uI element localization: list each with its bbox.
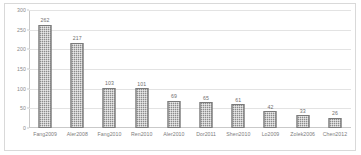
bar-slot: 42 — [254, 10, 286, 128]
bar-value-label: 26 — [332, 110, 338, 116]
bar-chart-figure: 050100150200250300 262217103101696561423… — [0, 0, 361, 155]
bar — [167, 101, 180, 128]
bar-value-label: 217 — [73, 35, 82, 41]
bar-value-label: 69 — [171, 93, 177, 99]
bar-slot: 103 — [93, 10, 125, 128]
x-axis-tick-label: Ren2010 — [131, 131, 152, 137]
x-axis-tick-label: Chen2012 — [323, 131, 347, 137]
x-axis-tick-label: Fang2010 — [98, 131, 122, 137]
bar — [200, 102, 213, 128]
x-axis-tick-label: Shen2010 — [226, 131, 250, 137]
bar-value-label: 61 — [235, 97, 241, 103]
bar — [264, 111, 277, 128]
x-axis-tick-label: Lo2009 — [262, 131, 280, 137]
x-axis-tick-label: Aler2008 — [67, 131, 88, 137]
x-axis-tick-label: Zolek2006 — [290, 131, 315, 137]
bar-value-label: 33 — [300, 108, 306, 114]
bars-group: 262217103101696561423326 — [29, 10, 351, 128]
bar-value-label: 101 — [137, 81, 146, 87]
bar — [71, 43, 84, 128]
x-axis-tick-label: Aler2010 — [163, 131, 184, 137]
x-axis-tick-label: Dor2011 — [196, 131, 216, 137]
plot-area: 050100150200250300 262217103101696561423… — [29, 10, 351, 128]
bar-slot: 33 — [287, 10, 319, 128]
bar-value-label: 65 — [203, 95, 209, 101]
bar-slot: 61 — [222, 10, 254, 128]
bar-value-label: 103 — [105, 80, 114, 86]
bar-slot: 26 — [319, 10, 351, 128]
bar-slot: 65 — [190, 10, 222, 128]
bar-slot: 101 — [126, 10, 158, 128]
bar — [135, 88, 148, 128]
bar — [296, 115, 309, 128]
bar-slot: 262 — [29, 10, 61, 128]
bar — [328, 118, 341, 128]
bar — [232, 104, 245, 128]
bar — [39, 25, 52, 128]
bar-value-label: 262 — [41, 17, 50, 23]
bar-value-label: 42 — [267, 104, 273, 110]
bar-slot: 69 — [158, 10, 190, 128]
x-axis-tick-label: Fang2009 — [33, 131, 57, 137]
bar-slot: 217 — [61, 10, 93, 128]
bar — [103, 88, 116, 129]
x-axis-tick-labels: Fang2009Aler2008Fang2010Ren2010Aler2010D… — [29, 129, 351, 147]
